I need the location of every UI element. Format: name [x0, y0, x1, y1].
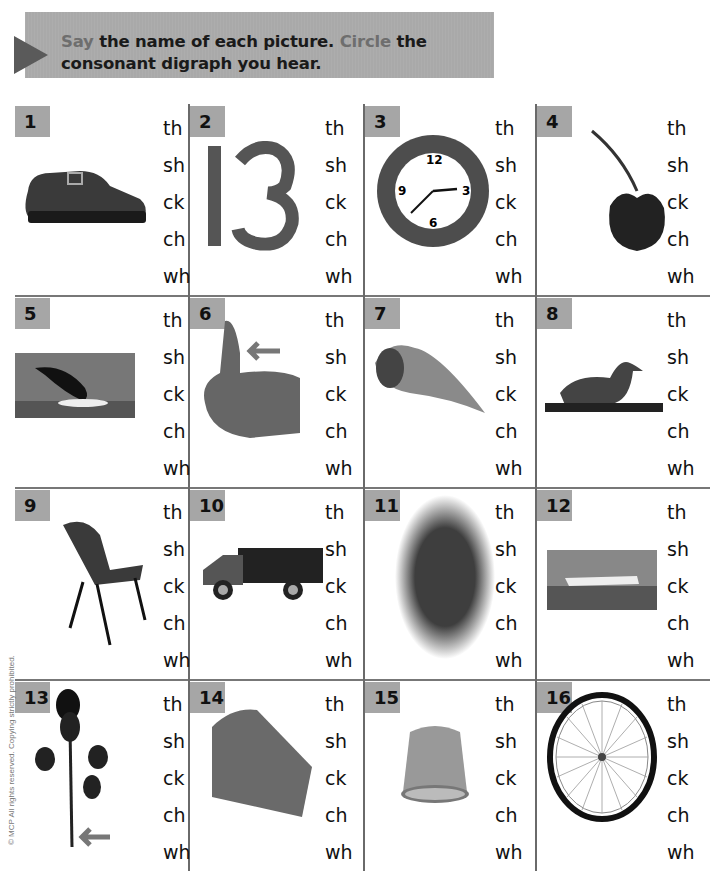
choice-wh[interactable]: wh [667, 642, 695, 679]
choice-ck[interactable]: ck [495, 376, 523, 413]
choice-ck[interactable]: ck [325, 568, 353, 605]
choice-wh[interactable]: wh [667, 834, 695, 871]
choice-ch[interactable]: ch [163, 221, 191, 258]
cheese-icon [202, 702, 332, 826]
choice-th[interactable]: th [495, 110, 523, 147]
choice-ck[interactable]: ck [325, 184, 353, 221]
choice-th[interactable]: th [667, 110, 695, 147]
choice-ch[interactable]: ch [495, 605, 523, 642]
choice-sh[interactable]: sh [325, 339, 353, 376]
choice-ch[interactable]: ch [667, 413, 695, 450]
choice-sh[interactable]: sh [163, 339, 191, 376]
choice-ch[interactable]: ch [495, 797, 523, 834]
choice-ch[interactable]: ch [325, 797, 353, 834]
choice-wh[interactable]: wh [495, 642, 523, 679]
item-number-badge: 5 [15, 298, 50, 329]
item-cell-3: 312369thshckchwh [365, 106, 535, 294]
choice-ck[interactable]: ck [163, 760, 191, 797]
truck-icon [198, 540, 328, 614]
choice-wh[interactable]: wh [163, 450, 191, 487]
choice-sh[interactable]: sh [667, 723, 695, 760]
choice-sh[interactable]: sh [667, 339, 695, 376]
choice-ch[interactable]: ch [325, 413, 353, 450]
choice-ch[interactable]: ch [325, 221, 353, 258]
choice-ck[interactable]: ck [163, 376, 191, 413]
choice-sh[interactable]: sh [163, 147, 191, 184]
instruction-banner: Say the name of each picture. Circle the… [25, 12, 494, 78]
choice-th[interactable]: th [325, 494, 353, 531]
digraph-choices: thshckchwh [667, 302, 695, 487]
choice-wh[interactable]: wh [495, 258, 523, 295]
choice-ch[interactable]: ch [667, 221, 695, 258]
item-number-badge: 2 [190, 106, 225, 137]
digraph-choices: thshckchwh [325, 494, 353, 679]
choice-wh[interactable]: wh [163, 258, 191, 295]
choice-wh[interactable]: wh [163, 834, 191, 871]
choice-th[interactable]: th [163, 302, 191, 339]
choice-ch[interactable]: ch [495, 221, 523, 258]
choice-th[interactable]: th [163, 686, 191, 723]
chair-icon [55, 510, 155, 654]
choice-th[interactable]: th [325, 302, 353, 339]
ship-icon [547, 550, 657, 614]
choice-ck[interactable]: ck [667, 376, 695, 413]
item-cell-10: 10thshckchwh [190, 490, 363, 678]
choice-sh[interactable]: sh [163, 531, 191, 568]
choice-sh[interactable]: sh [495, 147, 523, 184]
choice-wh[interactable]: wh [163, 642, 191, 679]
choice-sh[interactable]: sh [325, 531, 353, 568]
choice-sh[interactable]: sh [325, 147, 353, 184]
choice-ch[interactable]: ch [163, 605, 191, 642]
choice-wh[interactable]: wh [325, 834, 353, 871]
choice-th[interactable]: th [495, 686, 523, 723]
item-number-badge: 7 [365, 298, 400, 329]
choice-sh[interactable]: sh [325, 723, 353, 760]
digraph-choices: thshckchwh [163, 302, 191, 487]
choice-ch[interactable]: ch [163, 413, 191, 450]
choice-ck[interactable]: ck [495, 760, 523, 797]
choice-ck[interactable]: ck [495, 568, 523, 605]
choice-wh[interactable]: wh [495, 834, 523, 871]
choice-th[interactable]: th [495, 494, 523, 531]
choice-ck[interactable]: ck [667, 184, 695, 221]
choice-sh[interactable]: sh [495, 531, 523, 568]
choice-ch[interactable]: ch [667, 797, 695, 834]
choice-th[interactable]: th [325, 110, 353, 147]
choice-wh[interactable]: wh [325, 258, 353, 295]
choice-th[interactable]: th [495, 302, 523, 339]
choice-sh[interactable]: sh [667, 147, 695, 184]
arrow-icon [14, 36, 48, 74]
choice-ck[interactable]: ck [325, 376, 353, 413]
choice-ch[interactable]: ch [667, 605, 695, 642]
choice-th[interactable]: th [667, 302, 695, 339]
choice-ck[interactable]: ck [163, 568, 191, 605]
choice-th[interactable]: th [667, 494, 695, 531]
choice-sh[interactable]: sh [667, 531, 695, 568]
choice-th[interactable]: th [667, 686, 695, 723]
choice-sh[interactable]: sh [163, 723, 191, 760]
choice-ck[interactable]: ck [667, 568, 695, 605]
choice-ch[interactable]: ch [163, 797, 191, 834]
choice-wh[interactable]: wh [325, 450, 353, 487]
choice-sh[interactable]: sh [495, 723, 523, 760]
digraph-choices: thshckchwh [667, 110, 695, 295]
digraph-choices: thshckchwh [495, 110, 523, 295]
choice-ck[interactable]: ck [667, 760, 695, 797]
choice-wh[interactable]: wh [495, 450, 523, 487]
choice-sh[interactable]: sh [495, 339, 523, 376]
choice-ck[interactable]: ck [495, 184, 523, 221]
cherry-icon [582, 126, 672, 260]
choice-th[interactable]: th [163, 494, 191, 531]
choice-ch[interactable]: ch [325, 605, 353, 642]
choice-ck[interactable]: ck [163, 184, 191, 221]
choice-wh[interactable]: wh [667, 450, 695, 487]
choice-ck[interactable]: ck [325, 760, 353, 797]
whale-icon [15, 353, 135, 422]
choice-ch[interactable]: ch [495, 413, 523, 450]
choice-th[interactable]: th [325, 686, 353, 723]
digraph-choices: thshckchwh [667, 494, 695, 679]
choice-wh[interactable]: wh [325, 642, 353, 679]
choice-wh[interactable]: wh [667, 258, 695, 295]
copyright-text: © MCP All rights reserved. Copying stric… [7, 665, 17, 845]
choice-th[interactable]: th [163, 110, 191, 147]
